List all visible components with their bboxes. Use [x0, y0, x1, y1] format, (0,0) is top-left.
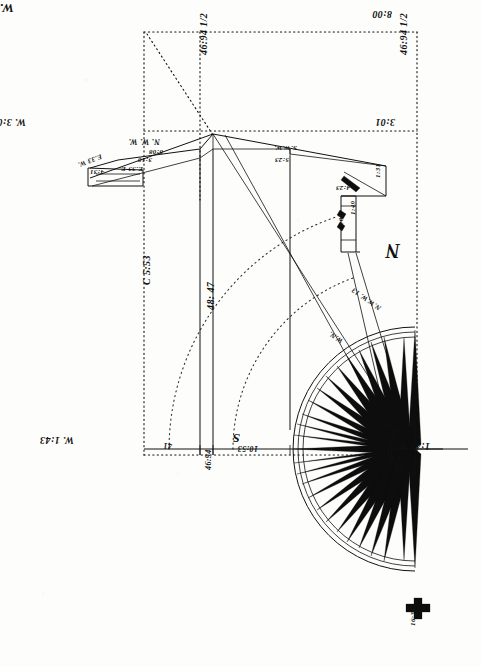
annotation-bearing: S.W.W. [274, 144, 297, 152]
annotation-distance: 41 [163, 441, 172, 450]
annotation-distance: 1:49 [349, 201, 357, 215]
annotation-bearing-distance: W. 8:00 [0, 0, 14, 16]
annotation-distance: 8:08 [149, 148, 163, 156]
annotation-distance: 3:10 [138, 156, 152, 164]
annotation-dimension: 46:94 1/2 [198, 13, 209, 55]
annotation-bearing-distance: 8:00 [372, 9, 392, 20]
annotation-bearing-distance: W. 3:01 [0, 117, 26, 128]
compass-rose [293, 327, 443, 619]
annotation-bearing: N. W. W. [128, 137, 160, 146]
annotation-distance: 10:53 [237, 444, 258, 453]
annotation-station-label: C 5:53 [141, 255, 152, 285]
annotation-bearing: E.33 E. [119, 165, 143, 173]
annotation-distance: 16:31 [409, 608, 417, 626]
annotation-distance: 4:23 [336, 184, 350, 192]
annotation-dimension: 46:94 [204, 449, 213, 470]
survey-plat-sheet: .solid{stroke:#111;fill:none;stroke-widt… [0, 0, 481, 667]
annotation-distance: 4:31 [90, 168, 104, 176]
annotation-dimension: 48: 47 [205, 282, 216, 310]
range-arcs [169, 217, 353, 449]
annotation-bearing-distance: 1:43 W. [396, 441, 430, 452]
annotation-distance: 1:31 [374, 164, 382, 178]
annotation-cardinal-north: N [385, 239, 400, 262]
plat-drawing: .solid{stroke:#111;fill:none;stroke-widt… [0, 0, 481, 667]
annotation-bearing-distance: 3:01 [375, 117, 395, 128]
annotation-dimension: 46:94 1/2 [398, 13, 409, 55]
annotation-distance: 5:23 [275, 156, 289, 164]
offset-steps [337, 166, 386, 252]
annotation-distance: 4:08 [337, 214, 345, 228]
annotation-bearing-distance: W. 1:43 [40, 435, 74, 446]
